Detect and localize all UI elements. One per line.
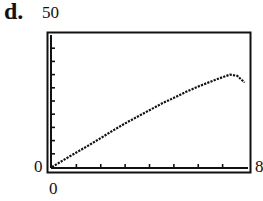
data-curve — [52, 75, 245, 167]
plot-frame — [48, 33, 251, 173]
chart-plot — [0, 0, 263, 201]
